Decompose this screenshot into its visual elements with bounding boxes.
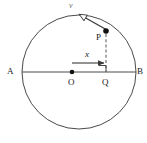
center-point-dot-o	[70, 70, 75, 75]
physics-circle-diagram: A B O P Q x v	[0, 0, 147, 143]
diagram-canvas	[0, 0, 147, 143]
label-b: B	[137, 67, 143, 76]
label-q: Q	[102, 78, 109, 87]
label-p: P	[96, 33, 101, 42]
label-a: A	[7, 67, 14, 76]
point-dot-p	[103, 28, 109, 34]
right-angle-marker-q	[99, 66, 106, 73]
label-v: v	[69, 1, 73, 10]
label-x: x	[85, 50, 89, 59]
label-o: O	[68, 78, 75, 87]
